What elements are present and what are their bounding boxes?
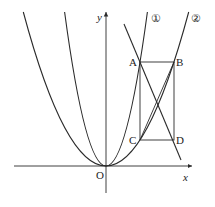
origin-label: O	[96, 169, 104, 181]
point-B-label: B	[176, 56, 183, 68]
y-axis-label: y	[96, 11, 102, 23]
curve-2-label: ②	[191, 12, 201, 24]
point-D-label: D	[176, 134, 184, 146]
point-A-label: A	[129, 56, 137, 68]
curve-1-label: ①	[151, 12, 161, 24]
figure: y x O A B C D ① ②	[0, 0, 215, 207]
x-axis-label: x	[182, 171, 188, 183]
point-C-label: C	[129, 134, 136, 146]
